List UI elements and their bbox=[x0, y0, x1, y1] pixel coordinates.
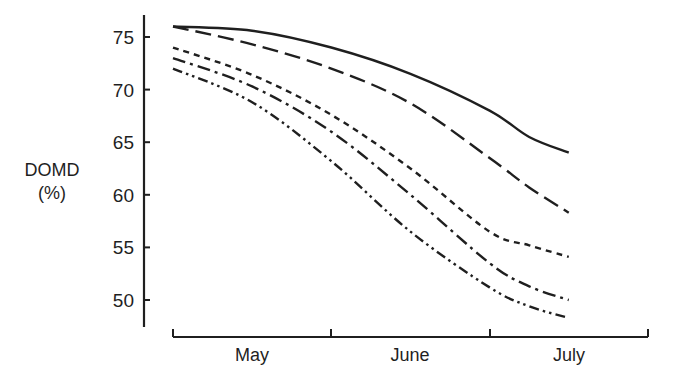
y-tick-label: 75 bbox=[113, 27, 134, 48]
plot-area bbox=[173, 26, 569, 317]
series-1-solid-line bbox=[173, 26, 569, 152]
y-tick-label: 50 bbox=[113, 290, 134, 311]
y-tick-label: 65 bbox=[113, 132, 134, 153]
y-axis-label-line-1: DOMD bbox=[25, 160, 80, 180]
series-4-dash-dot-line bbox=[173, 58, 569, 300]
y-tick-label: 70 bbox=[113, 80, 134, 101]
series-2-long-dash-line bbox=[173, 26, 569, 212]
x-axis: May June July bbox=[173, 329, 648, 365]
x-tick-label-june: June bbox=[390, 345, 429, 365]
series-5-dash-dot-dot-line bbox=[173, 69, 569, 318]
y-tick-label: 60 bbox=[113, 185, 134, 206]
x-tick-label-may: May bbox=[235, 345, 269, 365]
y-axis: 505560657075 bbox=[113, 15, 150, 327]
y-axis-label-line-2: (%) bbox=[38, 183, 66, 203]
line-chart: DOMD (%) 505560657075 May June July bbox=[0, 0, 673, 384]
y-tick-label: 55 bbox=[113, 237, 134, 258]
x-tick-label-july: July bbox=[553, 345, 585, 365]
